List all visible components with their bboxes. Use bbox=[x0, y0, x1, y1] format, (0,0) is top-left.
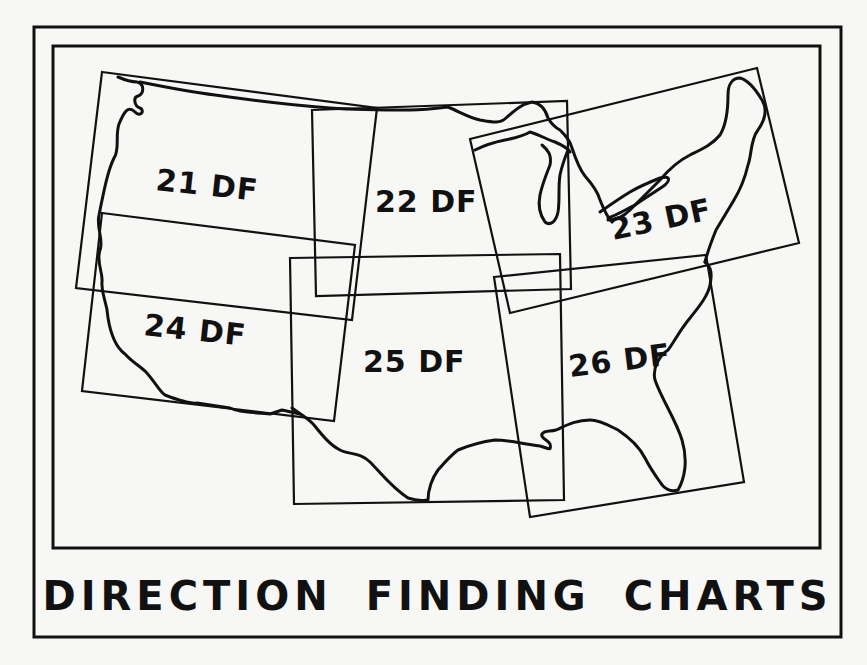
chart-label-21: 21 DF bbox=[154, 162, 260, 208]
chart-label-25: 25 DF bbox=[363, 344, 466, 379]
lake-michigan bbox=[539, 145, 568, 224]
chart-label-24: 24 DF bbox=[142, 307, 248, 353]
chart-coverage-areas: 21 DF22 DF23 DF24 DF25 DF26 DF bbox=[76, 68, 799, 517]
us-coastlines bbox=[98, 77, 765, 501]
chart-label-26: 26 DF bbox=[567, 337, 673, 384]
map-title: DIRECTION FINDING CHARTS bbox=[34, 568, 841, 624]
direction-finding-map: 21 DF22 DF23 DF24 DF25 DF26 DF bbox=[0, 0, 867, 665]
chart-area-22[interactable]: 22 DF bbox=[312, 101, 571, 296]
pacific-coast bbox=[98, 77, 300, 414]
chart-label-23: 23 DF bbox=[607, 191, 715, 247]
chart-label-22: 22 DF bbox=[375, 184, 478, 219]
